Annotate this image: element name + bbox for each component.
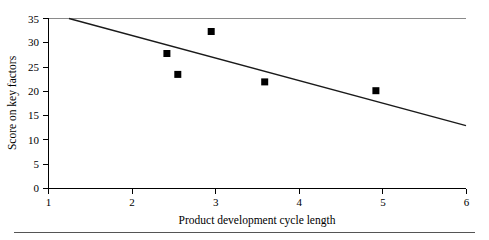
data-point-1 bbox=[163, 50, 170, 57]
x-tick-label-6: 6 bbox=[464, 196, 470, 208]
data-point-3 bbox=[208, 28, 215, 35]
x-tick-label-5: 5 bbox=[380, 196, 386, 208]
y-tick-label-35: 35 bbox=[28, 13, 40, 25]
x-tick-label-4: 4 bbox=[297, 196, 303, 208]
x-tick-label-2: 2 bbox=[129, 196, 135, 208]
x-axis-ticks bbox=[49, 189, 467, 195]
y-axis-tick-labels: 0 5 10 15 20 25 30 35 bbox=[28, 13, 40, 195]
data-point-5 bbox=[372, 87, 379, 94]
y-tick-label-15: 15 bbox=[28, 109, 40, 121]
y-tick-label-30: 30 bbox=[28, 36, 40, 48]
figure-container: 0 5 10 15 20 25 30 35 1 2 3 4 5 6 bbox=[0, 0, 489, 240]
y-tick-label-10: 10 bbox=[28, 134, 40, 146]
x-tick-label-3: 3 bbox=[213, 196, 219, 208]
scatter-plot: 0 5 10 15 20 25 30 35 1 2 3 4 5 6 bbox=[0, 0, 489, 240]
x-axis-title: Product development cycle length bbox=[179, 214, 336, 227]
x-axis-tick-labels: 1 2 3 4 5 6 bbox=[46, 196, 470, 208]
y-tick-label-20: 20 bbox=[28, 85, 40, 97]
y-axis-title: Score on key factors bbox=[6, 55, 19, 150]
x-tick-label-1: 1 bbox=[46, 196, 52, 208]
data-point-4 bbox=[261, 78, 268, 85]
y-tick-label-5: 5 bbox=[34, 158, 40, 170]
trend-line bbox=[69, 19, 466, 126]
y-tick-label-25: 25 bbox=[28, 61, 40, 73]
y-axis-ticks bbox=[43, 19, 48, 189]
data-points bbox=[163, 28, 379, 94]
data-point-2 bbox=[174, 71, 181, 78]
y-tick-label-0: 0 bbox=[34, 182, 40, 194]
